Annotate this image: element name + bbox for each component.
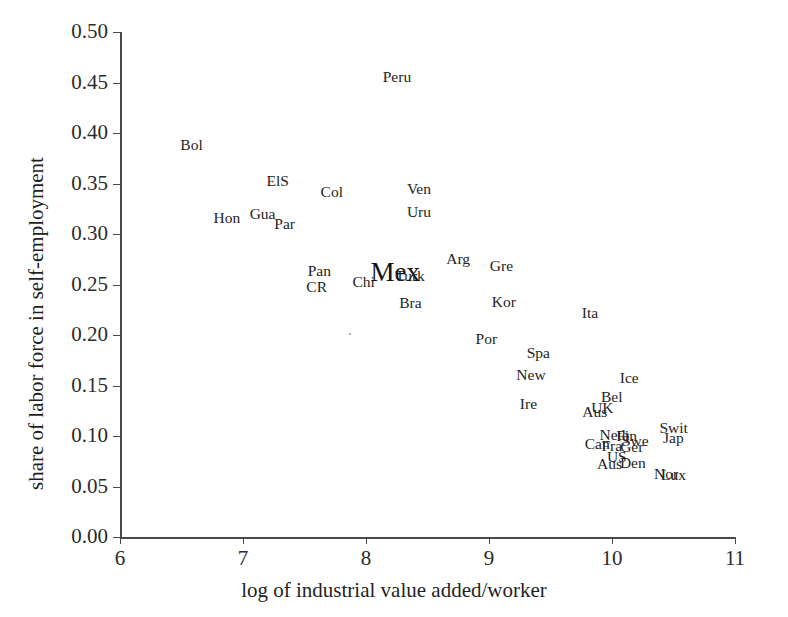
x-tick-label: 11 [705,546,765,571]
data-point-label: CR [306,279,327,295]
data-point-label: Uru [407,204,431,220]
y-tick-label: 0.40 [28,120,108,145]
data-point-label: Turk [395,268,425,284]
data-point-label: Jap [663,430,684,446]
y-tick-label: 0.50 [28,19,108,44]
y-axis-title: share of labor force in self-employment [24,157,49,490]
y-tick-mark [113,436,120,437]
y-axis-line [120,32,122,538]
data-point-label: Kor [492,294,516,310]
y-tick-mark [113,386,120,387]
data-point-label: Lux [661,467,686,483]
x-tick-mark [243,537,244,544]
x-tick-mark [735,537,736,544]
y-tick-mark [113,285,120,286]
data-point-label: Ita [582,305,598,321]
data-point-label: Gua [250,206,276,222]
x-tick-label: 6 [90,546,150,571]
x-tick-mark [120,537,121,544]
y-tick-mark [113,32,120,33]
data-point-label: ElS [266,173,288,189]
data-point-label: Chi [353,274,375,290]
scatter-chart: 0.000.050.100.150.200.250.300.350.400.45… [0,0,788,617]
data-point-label: Ire [520,396,537,412]
y-tick-mark [113,335,120,336]
x-tick-mark [366,537,367,544]
data-point-label: New [516,367,545,383]
data-point-label: Pan [308,263,331,279]
data-point-label: Col [321,184,343,200]
y-tick-mark [113,487,120,488]
stray-dot-marker [349,333,351,335]
y-tick-mark [113,83,120,84]
data-point-label: Bol [180,137,202,153]
x-tick-label: 7 [213,546,273,571]
x-tick-mark [612,537,613,544]
y-tick-label: 0.45 [28,70,108,95]
x-tick-mark [489,537,490,544]
data-point-label: Ven [407,181,431,197]
data-point-label: Peru [383,69,411,85]
data-point-label: Aus [582,404,607,420]
data-point-label: Bra [399,295,421,311]
data-point-label: Arg [446,251,470,267]
data-point-label: Par [274,216,295,232]
x-tick-label: 8 [336,546,396,571]
data-point-label: Ice [620,370,639,386]
data-point-label: Den [620,455,646,471]
data-point-label: Spa [527,345,550,361]
data-point-label: Hon [214,210,241,226]
y-tick-mark [113,537,120,538]
x-tick-label: 9 [459,546,519,571]
x-axis-title: log of industrial value added/worker [0,578,788,603]
data-point-label: Gre [490,258,513,274]
y-tick-mark [113,184,120,185]
data-point-label: Por [476,331,498,347]
data-point-label: Aus [597,456,622,472]
y-tick-mark [113,234,120,235]
x-tick-label: 10 [582,546,642,571]
y-tick-mark [113,133,120,134]
x-axis-line [120,537,736,539]
